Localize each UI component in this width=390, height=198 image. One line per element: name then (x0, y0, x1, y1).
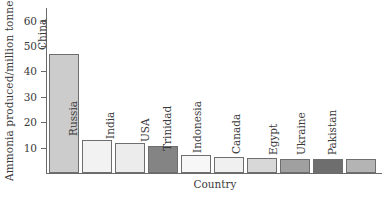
bar-group: Pakistan (346, 8, 376, 173)
bar-label: Indonesia (191, 101, 203, 153)
y-tick-label-60: 60 (15, 16, 37, 27)
bar-group: China (49, 8, 79, 173)
bar[interactable] (115, 143, 145, 173)
bar-label: India (104, 111, 116, 138)
bar-label: Pakistan (326, 110, 338, 155)
y-tick-20 (41, 122, 46, 123)
y-tick-label-30: 30 (15, 92, 37, 103)
bar-label: Canada (230, 113, 242, 153)
bar-label: USA (139, 119, 151, 143)
bar-label: Trinidad (161, 106, 173, 151)
y-tick-40 (41, 71, 46, 72)
y-tick-30 (41, 97, 46, 98)
bar-group: India (115, 8, 145, 173)
bar[interactable] (214, 157, 244, 174)
plot-area: ChinaRussiaIndiaUSATrinidadIndonesiaCana… (47, 8, 390, 173)
y-tick-10 (41, 148, 46, 149)
bar-label: China (36, 19, 48, 50)
y-tick-label-20: 20 (15, 117, 37, 128)
bar[interactable] (181, 155, 211, 173)
bar-label: Russia (67, 101, 79, 136)
y-tick-label-10: 10 (15, 143, 37, 154)
bar-group: Russia (82, 8, 112, 173)
x-axis-line (46, 173, 382, 174)
bar-label: Egypt (267, 124, 279, 155)
bar-label: Ukraine (295, 112, 307, 155)
bar[interactable] (313, 159, 343, 173)
bar[interactable] (82, 140, 112, 173)
bar[interactable] (346, 159, 376, 173)
y-tick-label-40: 40 (15, 66, 37, 77)
y-axis-title-text: Ammonia produced/million tonnes (3, 0, 15, 181)
bar-chart: Ammonia produced/million tonnes 10203040… (0, 0, 390, 198)
bar[interactable] (280, 159, 310, 173)
bar[interactable] (247, 158, 277, 173)
y-tick-label-50: 50 (15, 41, 37, 52)
x-axis-title: Country (47, 178, 383, 190)
